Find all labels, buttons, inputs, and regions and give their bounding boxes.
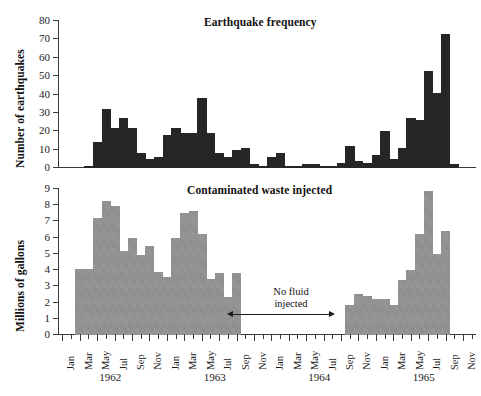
x-axis-year-labels: 1962196319641965 [58, 372, 476, 388]
x-tick-label: Nov [258, 352, 269, 370]
x-tick-label: Mar [188, 353, 199, 371]
x-tick [324, 334, 325, 341]
x-tick [158, 334, 159, 339]
x-tick [80, 334, 81, 341]
y-axis-label-earthquakes: Number of earthquakes [14, 49, 26, 168]
x-tick [141, 334, 142, 339]
x-tick-label: Jan [66, 356, 77, 370]
x-tick [202, 334, 203, 341]
bar [441, 231, 450, 335]
x-tick [88, 334, 89, 339]
x-tick [446, 334, 447, 341]
x-tick-label: Jan [275, 356, 286, 370]
x-tick-label: Jul [328, 358, 339, 370]
x-tick-label: Mar [293, 353, 304, 371]
year-label: 1963 [195, 372, 235, 383]
y-tick-label: 0 [36, 329, 50, 340]
earthquake-waste-figure: Number of earthquakes Earthquake frequen… [0, 0, 481, 396]
x-tick-label: Jan [171, 356, 182, 370]
x-tick [132, 334, 133, 341]
x-tick-label: Jul [223, 358, 234, 370]
y-tick-label: 10 [28, 144, 50, 155]
x-tick [210, 334, 211, 339]
x-tick-label: Jul [432, 358, 443, 370]
x-axis-tick-marks [58, 334, 476, 342]
x-tick [97, 334, 98, 341]
y-tick-label: 9 [36, 183, 50, 194]
y-tick-label: 8 [36, 199, 50, 210]
no-fluid-line1: No fluid [254, 286, 328, 298]
x-tick-label: May [101, 351, 112, 370]
y-tick [53, 149, 58, 150]
no-fluid-line2: injected [254, 298, 328, 310]
earthquake-frequency-panel: Number of earthquakes Earthquake frequen… [0, 0, 481, 180]
x-tick-label: Jan [380, 356, 391, 370]
x-tick [402, 334, 403, 339]
waste-plot-area: 0123456789 No fluid injected [58, 188, 476, 335]
x-tick [123, 334, 124, 339]
x-tick [289, 334, 290, 341]
x-tick [167, 334, 168, 341]
x-tick [149, 334, 150, 341]
x-tick [193, 334, 194, 339]
y-tick [53, 318, 58, 319]
x-tick [263, 334, 264, 339]
y-tick [53, 204, 58, 205]
contaminated-waste-panel: Millions of gallons Contaminated waste i… [0, 180, 481, 396]
x-tick [454, 334, 455, 339]
earthquake-plot-area: 01020304050607080 [58, 20, 476, 168]
x-tick [228, 334, 229, 339]
no-fluid-arrow-line [233, 314, 329, 315]
x-tick-label: Sep [136, 354, 147, 370]
x-tick [184, 334, 185, 341]
x-tick [472, 334, 473, 339]
x-tick-label: Nov [467, 352, 478, 370]
y-axis-label-gallons: Millions of gallons [14, 240, 26, 332]
x-tick-label: Jul [119, 358, 130, 370]
bar [232, 273, 241, 335]
y-tick-label: 4 [36, 264, 50, 275]
x-tick [428, 334, 429, 341]
x-tick [280, 334, 281, 339]
y-tick-label: 60 [28, 52, 50, 63]
y-tick-label: 1 [36, 313, 50, 324]
y-tick [53, 167, 58, 168]
y-tick-label: 5 [36, 248, 50, 259]
x-tick [62, 334, 63, 341]
x-tick-label: Mar [84, 353, 95, 371]
x-tick-label: Nov [362, 352, 373, 370]
x-tick-label: May [310, 351, 321, 370]
no-fluid-annotation: No fluid injected [254, 286, 328, 310]
y-tick-label: 6 [36, 232, 50, 243]
x-tick [332, 334, 333, 339]
y-tick [53, 237, 58, 238]
y-tick-label: 3 [36, 280, 50, 291]
y-tick [53, 130, 58, 131]
no-fluid-arrow-left-head [227, 311, 233, 317]
year-label: 1965 [404, 372, 444, 383]
y-tick [53, 57, 58, 58]
y-tick [53, 94, 58, 95]
no-fluid-arrow-right-head [329, 311, 335, 317]
x-axis-month-labels: JanMarMayJulSepNovJanMarMayJulSepNovJanM… [58, 342, 476, 372]
y-tick-label: 30 [28, 107, 50, 118]
y-tick [53, 220, 58, 221]
x-tick-label: Sep [241, 354, 252, 370]
x-tick-label: Mar [397, 353, 408, 371]
x-tick [463, 334, 464, 341]
y-tick [53, 20, 58, 21]
x-tick [341, 334, 342, 341]
x-tick-label: Sep [450, 354, 461, 370]
x-tick [271, 334, 272, 341]
bar [441, 34, 450, 168]
y-tick [53, 75, 58, 76]
y-tick-label: 7 [36, 215, 50, 226]
y-tick-label: 2 [36, 297, 50, 308]
y-tick [53, 253, 58, 254]
y-tick [53, 112, 58, 113]
x-tick [245, 334, 246, 339]
y-tick [53, 38, 58, 39]
x-tick [176, 334, 177, 339]
year-label: 1964 [299, 372, 339, 383]
y-tick-label: 20 [28, 125, 50, 136]
